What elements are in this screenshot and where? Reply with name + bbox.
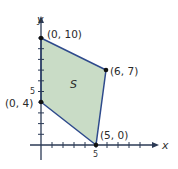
vertex-label-0-4: (0, 4): [5, 97, 33, 109]
vertex-label-0-10: (0, 10): [47, 28, 82, 40]
coordinate-plane: y x 5 5 (0, 10) (6, 7) (5, 0) (0, 4) S: [0, 0, 178, 169]
x-tick-label-5: 5: [93, 150, 98, 159]
vertex-0-10: [39, 36, 44, 41]
vertex-5-0: [94, 143, 99, 148]
x-axis-arrow-icon: [152, 142, 159, 148]
y-axis-label: y: [36, 13, 44, 26]
y-tick-label-5: 5: [30, 87, 35, 96]
vertex-label-6-7: (6, 7): [110, 65, 138, 77]
feasible-region-s: [41, 38, 106, 145]
x-axis-label: x: [161, 139, 169, 152]
region-label: S: [70, 78, 77, 91]
vertex-6-7: [104, 68, 109, 73]
vertex-0-4: [39, 100, 44, 105]
vertex-label-5-0: (5, 0): [100, 129, 128, 141]
